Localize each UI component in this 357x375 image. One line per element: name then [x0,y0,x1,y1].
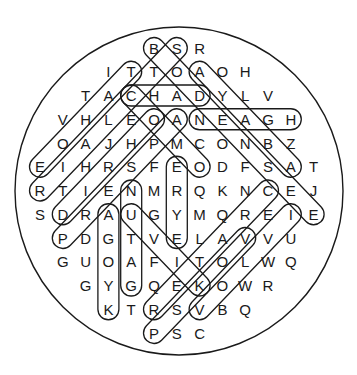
grid-letter[interactable]: C [263,182,274,199]
grid-letter[interactable]: M [171,135,184,152]
grid-letter[interactable]: O [57,135,69,152]
grid-letter[interactable]: J [310,182,318,199]
grid-letter[interactable]: V [263,230,273,247]
grid-letter[interactable]: Q [194,182,206,199]
grid-letter[interactable]: I [84,182,88,199]
grid-letter[interactable]: N [240,135,251,152]
grid-letter[interactable]: N [240,182,251,199]
grid-letter[interactable]: S [172,301,182,318]
grid-letter[interactable]: H [240,63,251,80]
grid-letter[interactable]: Y [172,206,182,223]
grid-letter[interactable]: F [241,158,250,175]
grid-letter[interactable]: D [80,230,91,247]
grid-letter[interactable]: G [262,111,274,128]
grid-letter[interactable]: A [103,87,113,104]
grid-letter[interactable]: Q [148,277,160,294]
grid-letter[interactable]: V [263,87,273,104]
grid-letter[interactable]: T [81,87,90,104]
grid-letter[interactable]: T [58,182,67,199]
grid-letter[interactable]: E [172,158,182,175]
grid-letter[interactable]: H [80,111,91,128]
grid-letter[interactable]: Q [239,301,251,318]
grid-letter[interactable]: K [195,277,205,294]
grid-letter[interactable]: S [172,40,182,57]
grid-letter[interactable]: E [263,206,273,223]
grid-letter[interactable]: E [286,182,296,199]
grid-letter[interactable]: P [149,325,159,342]
grid-letter[interactable]: T [127,63,136,80]
grid-letter[interactable]: B [149,40,159,57]
grid-letter[interactable]: L [195,230,203,247]
grid-letter[interactable]: T [195,253,204,270]
grid-letter[interactable]: R [103,158,114,175]
grid-letter[interactable]: K [103,301,113,318]
grid-letter[interactable]: H [149,87,160,104]
grid-letter[interactable]: V [149,230,159,247]
grid-letter[interactable]: T [309,158,318,175]
grid-letter[interactable]: R [240,206,251,223]
grid-letter[interactable]: S [172,325,182,342]
grid-letter[interactable]: D [217,158,228,175]
grid-letter[interactable]: I [61,158,65,175]
grid-letter[interactable]: S [35,206,45,223]
grid-letter[interactable]: P [58,230,68,247]
grid-letter[interactable]: C [194,135,205,152]
grid-letter[interactable]: M [193,206,206,223]
grid-letter[interactable]: F [149,253,158,270]
grid-letter[interactable]: S [126,158,136,175]
grid-letter[interactable]: D [57,206,68,223]
grid-letter[interactable]: C [194,325,205,342]
grid-letter[interactable]: G [103,230,115,247]
grid-letter[interactable]: L [241,253,249,270]
grid-letter[interactable]: M [148,182,161,199]
grid-letter[interactable]: A [126,253,136,270]
grid-letter[interactable]: A [81,135,91,152]
grid-letter[interactable]: H [285,111,296,128]
grid-letter[interactable]: J [105,135,113,152]
grid-letter[interactable]: O [217,63,229,80]
grid-letter[interactable]: E [126,111,136,128]
grid-letter[interactable]: T [127,301,136,318]
grid-letter[interactable]: O [103,253,115,270]
grid-letter[interactable]: O [148,111,160,128]
grid-letter[interactable]: E [309,206,319,223]
grid-letter[interactable]: B [217,301,227,318]
grid-letter[interactable]: Q [217,206,229,223]
grid-letter[interactable]: I [289,206,293,223]
grid-letter[interactable]: D [194,87,205,104]
grid-letter[interactable]: A [172,87,182,104]
grid-letter[interactable]: W [261,253,276,270]
grid-letter[interactable]: R [35,182,46,199]
grid-letter[interactable]: O [194,158,206,175]
grid-letter[interactable]: L [241,87,249,104]
grid-letter[interactable]: E [172,277,182,294]
grid-letter[interactable]: O [217,253,229,270]
grid-letter[interactable]: H [80,158,91,175]
grid-letter[interactable]: R [194,40,205,57]
grid-letter[interactable]: U [80,253,91,270]
grid-letter[interactable]: A [195,63,205,80]
grid-letter[interactable]: V [195,301,205,318]
grid-letter[interactable]: Y [103,277,113,294]
grid-letter[interactable]: U [126,206,137,223]
grid-letter[interactable]: Z [286,135,295,152]
grid-letter[interactable]: A [240,111,250,128]
grid-letter[interactable]: R [263,277,274,294]
grid-letter[interactable]: G [80,277,92,294]
grid-letter[interactable]: N [126,182,137,199]
grid-letter[interactable]: R [80,206,91,223]
grid-letter[interactable]: P [149,135,159,152]
grid-letter[interactable]: A [103,206,113,223]
grid-letter[interactable]: E [103,182,113,199]
grid-letter[interactable]: K [217,182,227,199]
grid-letter[interactable]: V [240,230,250,247]
grid-letter[interactable]: H [126,135,137,152]
grid-letter[interactable]: E [172,230,182,247]
grid-letter[interactable]: G [125,277,137,294]
grid-letter[interactable]: E [35,158,45,175]
grid-letter[interactable]: N [194,111,205,128]
grid-letter[interactable]: Y [217,87,227,104]
grid-letter[interactable]: A [217,230,227,247]
grid-letter[interactable]: S [263,158,273,175]
grid-letter[interactable]: T [149,63,158,80]
